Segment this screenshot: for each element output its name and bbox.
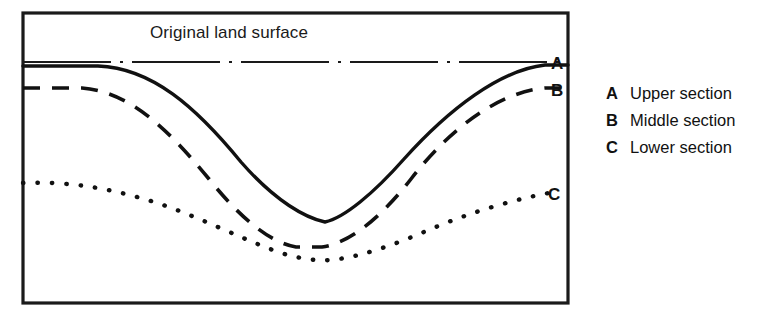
legend-item-upper-section: A Upper section bbox=[606, 84, 782, 111]
legend-key-c: C bbox=[606, 138, 630, 157]
legend-key-b: B bbox=[606, 111, 630, 130]
legend-label-upper-section: Upper section bbox=[630, 84, 732, 103]
legend-label-middle-section: Middle section bbox=[630, 111, 735, 130]
figure-root: A B C Original land surface A Upper sect… bbox=[0, 0, 783, 326]
legend-item-middle-section: B Middle section bbox=[606, 111, 782, 138]
legend-key-a: A bbox=[606, 84, 630, 103]
curve-tag-b: B bbox=[551, 81, 563, 100]
curve-tag-a: A bbox=[551, 54, 563, 73]
curve-tag-c: C bbox=[548, 185, 560, 204]
plot-title: Original land surface bbox=[150, 23, 308, 43]
legend-item-lower-section: C Lower section bbox=[606, 138, 782, 165]
legend-label-lower-section: Lower section bbox=[630, 138, 732, 157]
legend: A Upper section B Middle section C Lower… bbox=[606, 84, 782, 165]
